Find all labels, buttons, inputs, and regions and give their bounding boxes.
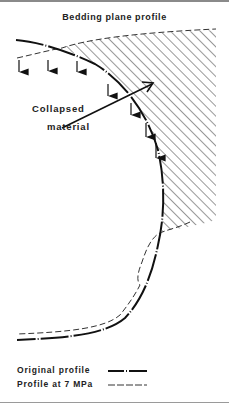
profile-7mpa-lower [17,222,190,334]
profile-diagram [0,0,229,408]
legend-swatches [108,371,147,385]
bottom-border [0,402,229,403]
legend-profile-7mpa: Profile at 7 MPa [17,379,93,389]
legend-original-profile: Original profile [17,365,90,375]
annotation-material: material [47,121,90,132]
annotation-collapsed: Collapsed [32,103,85,114]
